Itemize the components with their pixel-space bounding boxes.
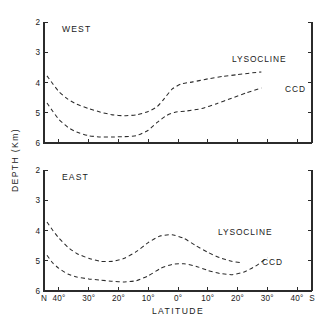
x-tick-label: 30°	[82, 294, 95, 303]
y-tick-label: 4	[35, 79, 40, 88]
y-tick-label: 4	[35, 227, 40, 236]
x-tick-label: 0°	[174, 294, 182, 303]
curve-ccd	[47, 255, 267, 282]
labels-layer: WESTEASTLYSOCLINECCDLYSOCLINECCDN40°30°2…	[10, 24, 315, 316]
series-label-lysocline-west: LYSOCLINE	[232, 54, 287, 64]
x-tick-label: 20°	[231, 294, 244, 303]
x-tick-label: 40°	[52, 294, 65, 303]
y-tick-label: 6	[35, 139, 40, 148]
y-tick-label: 2	[35, 166, 40, 175]
curve-lysocline	[47, 72, 261, 116]
y-tick-label: 6	[35, 287, 40, 296]
x-tick-label: N	[41, 294, 47, 303]
panel-tag-west: WEST	[62, 24, 91, 34]
series-label-lysocline-east: LYSOCLINE	[218, 227, 273, 237]
x-tick-label: 10°	[201, 294, 214, 303]
x-tick-label: 20°	[112, 294, 125, 303]
y-tick-label: 5	[35, 109, 40, 118]
y-tick-label: 2	[35, 18, 40, 27]
x-axis-title: LATITUDE	[152, 306, 204, 316]
curve-ccd	[47, 88, 261, 137]
x-tick-label: S	[309, 294, 315, 303]
y-axis-title: DEPTH (Km)	[10, 128, 20, 192]
y-tick-label: 5	[35, 257, 40, 266]
y-tick-label: 3	[35, 196, 40, 205]
panel-tag-east: EAST	[62, 172, 89, 182]
chart-canvas: 2345623456 WESTEASTLYSOCLINECCDLYSOCLINE…	[0, 0, 335, 319]
x-tick-label: 30°	[261, 294, 274, 303]
curve-lysocline	[47, 222, 241, 263]
x-tick-label: 10°	[142, 294, 155, 303]
series-label-ccd-west: CCD	[285, 84, 306, 94]
figure-container: 2345623456 WESTEASTLYSOCLINECCDLYSOCLINE…	[0, 0, 335, 319]
x-tick-label: 40°	[291, 294, 304, 303]
series-label-ccd-east: CCD	[262, 257, 283, 267]
y-tick-label: 3	[35, 48, 40, 57]
